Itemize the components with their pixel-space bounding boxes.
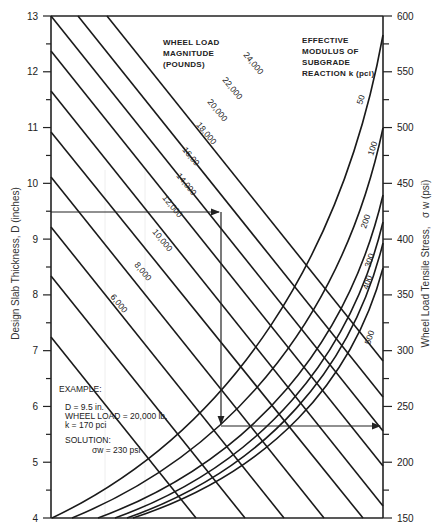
wheel-load-label: 24,000 [241, 50, 265, 77]
left-tick-label: 7 [32, 345, 38, 356]
load-header: MAGNITUDE [163, 49, 215, 58]
right-tick-label: 350 [397, 289, 414, 300]
solution-value: σw = 230 psi [92, 445, 141, 455]
right-axis-label-text: Wheel Load Tensile Stress, [420, 226, 431, 347]
wheel-load-label: 22,000 [220, 75, 244, 102]
solution-title: SOLUTION: [65, 435, 111, 445]
k-header: MODULUS OF [302, 47, 359, 56]
design-chart: 45678910111213 1502002503003504004505005… [0, 0, 438, 532]
load-header: WHEEL LOAD [163, 38, 220, 47]
k-curve-label: 400 [360, 274, 374, 291]
k-header: EFFECTIVE [302, 36, 349, 45]
example-title: EXAMPLE: [59, 384, 102, 394]
right-tick-label: 300 [397, 345, 414, 356]
left-tick-label: 8 [32, 289, 38, 300]
right-axis-symbol: σ w (psi) [420, 180, 431, 218]
left-tick-label: 9 [32, 234, 38, 245]
wheel-load-label: 20,000 [205, 97, 229, 124]
wheel-load-line [51, 16, 383, 431]
right-axis-label: Wheel Load Tensile Stress, σ w (psi) [420, 169, 431, 359]
left-tick-label: 13 [27, 11, 39, 22]
k-curve [127, 243, 383, 518]
left-axis-label: Design Slab Thickness, D (inches) [10, 179, 21, 349]
wheel-load-label: 12,000 [160, 193, 184, 220]
right-tick-label: 250 [397, 401, 414, 412]
k-curve-label: 500 [362, 329, 376, 346]
right-tick-label: 400 [397, 234, 414, 245]
k-header: SUBGRADE [302, 58, 351, 67]
right-tick-label: 500 [397, 122, 414, 133]
left-tick-label: 6 [32, 401, 38, 412]
wheel-load-line [51, 227, 284, 518]
wheel-load-line [51, 177, 324, 518]
right-tick-label: 150 [397, 513, 414, 524]
wheel-load-label: 18,000 [194, 120, 218, 147]
k-curve [133, 268, 383, 518]
left-tick-label: 5 [32, 457, 38, 468]
right-tick-label: 200 [397, 457, 414, 468]
example-line3: k = 170 pci [65, 420, 106, 430]
wheel-load-line [51, 132, 363, 518]
right-tick-label: 550 [397, 66, 414, 77]
left-tick-label: 12 [27, 66, 39, 77]
k-curve-label: 50 [354, 93, 367, 105]
k-header: REACTION k (pci) [302, 69, 374, 78]
wheel-load-label: 14,000 [174, 171, 198, 198]
wheel-load-label: 16,00 [180, 145, 201, 168]
k-curve-label: 200 [358, 213, 372, 230]
wheel-load-label: 8,000 [132, 260, 153, 283]
right-tick-label: 450 [397, 178, 414, 189]
left-tick-label: 10 [27, 178, 39, 189]
left-tick-label: 11 [28, 122, 39, 133]
left-tick-label: 4 [32, 513, 38, 524]
right-tick-label: 600 [397, 11, 414, 22]
load-header: (POUNDS) [163, 60, 205, 69]
